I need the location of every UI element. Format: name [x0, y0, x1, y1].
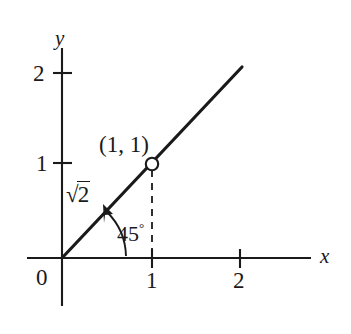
angle-value: 45	[117, 221, 139, 246]
x-tick-label-1: 1	[146, 269, 158, 292]
y-axis-label: y	[55, 28, 64, 49]
point-label-1-1: (1, 1)	[99, 133, 149, 156]
origin-label: 0	[36, 266, 48, 289]
plot-canvas	[0, 0, 351, 334]
y-tick-label-2: 2	[33, 62, 45, 85]
math-figure: y x 0 2 1 1 2 (1, 1) √2 45°	[0, 0, 351, 334]
point-marker-1-1	[146, 158, 158, 170]
x-tick-label-2: 2	[233, 269, 245, 292]
degree-sign: °	[139, 220, 144, 235]
y-tick-label-1: 1	[36, 152, 48, 175]
segment-length-label: √2	[66, 181, 90, 206]
radical-sign: √	[66, 182, 79, 206]
x-axis-label: x	[320, 246, 329, 267]
angle-label: 45°	[117, 222, 144, 245]
